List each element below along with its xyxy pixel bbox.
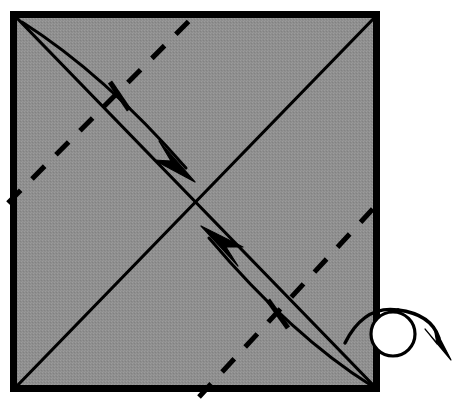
- origami-diagram-root: Origami step: fold two opposite corners …: [0, 0, 458, 414]
- origami-diagram-canvas: Origami step: fold two opposite corners …: [0, 0, 458, 414]
- turn-over-circle-icon: [371, 312, 415, 356]
